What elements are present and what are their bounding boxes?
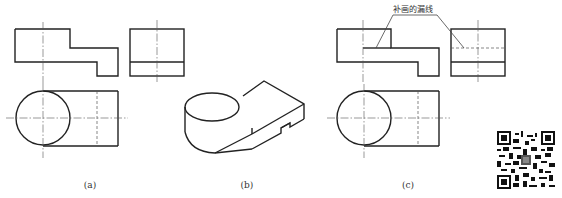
- caption-c: (c): [402, 180, 414, 190]
- front-view-c: [337, 20, 439, 84]
- side-view-a: [130, 20, 184, 84]
- panel-a: [6, 20, 184, 158]
- panel-c: [327, 15, 505, 158]
- caption-b: (b): [241, 180, 254, 190]
- panel-b-isometric: [185, 81, 304, 153]
- top-view-a: [6, 84, 128, 158]
- qr-code[interactable]: [497, 131, 555, 189]
- side-view-c: [451, 20, 505, 84]
- caption-a: (a): [84, 180, 96, 190]
- missing-line-annotation: 补画的漏线: [393, 3, 433, 14]
- front-view-a: [15, 22, 118, 84]
- technical-drawing: [0, 0, 562, 198]
- top-view-c: [327, 84, 450, 158]
